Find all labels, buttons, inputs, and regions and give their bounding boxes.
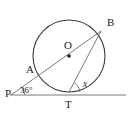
point-label-a: A: [26, 64, 34, 75]
point-label-p: P: [5, 88, 11, 99]
angle-label-at-p: 36°: [20, 86, 33, 95]
angle-label-at-t: x: [83, 80, 87, 90]
geometry-figure: P A O B T 36° x: [0, 0, 128, 116]
point-label-t: T: [65, 99, 72, 110]
center-point-dot: [67, 54, 71, 58]
point-label-o: O: [64, 40, 72, 51]
point-label-b: B: [107, 17, 114, 28]
